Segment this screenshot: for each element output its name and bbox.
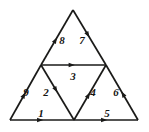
arrowhead-edge-8 (52, 38, 57, 45)
edge-label-3: 3 (70, 71, 76, 82)
arrowhead-edge-2 (52, 86, 57, 92)
edge-label-5: 5 (104, 108, 110, 119)
arrowhead-edge-6 (121, 91, 126, 98)
edge-label-4: 4 (90, 87, 96, 98)
triangle-diagram-figure: 123456789 (0, 0, 149, 132)
arrowhead-edge-4 (85, 93, 90, 100)
diagram-canvas (0, 0, 149, 132)
arrowhead-edge-3 (69, 63, 75, 68)
edge-label-9: 9 (23, 87, 29, 98)
edge-label-6: 6 (113, 87, 119, 98)
edge-label-7: 7 (79, 35, 85, 46)
edge-label-8: 8 (59, 35, 65, 46)
edge-label-1: 1 (38, 108, 44, 119)
edge-label-2: 2 (43, 87, 49, 98)
